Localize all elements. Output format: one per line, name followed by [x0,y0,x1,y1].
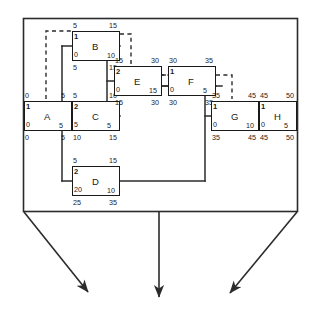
node-A-resource-count: 1 [26,103,30,111]
node-H-duration: 5 [284,122,288,129]
node-F-ls-label: 30 [169,99,177,106]
node-E-name: E [134,77,140,87]
node-C-name: C [92,112,99,122]
node-A-name: A [44,112,50,122]
node-A-lf-label: 5 [61,134,65,141]
node-A-float: 0 [26,121,30,128]
node-G-float: 0 [213,121,217,128]
node-F-ef-label: 35 [205,57,213,64]
callout-arrow-left [24,212,88,292]
node-B-name: B [92,42,98,52]
node-G-ls-label: 35 [212,134,220,141]
node-A-es-label: 0 [25,92,29,99]
node-A-ef-label: 5 [61,92,65,99]
node-B-es-label: 5 [73,22,77,29]
node-C-es-label: 5 [73,92,77,99]
node-F-resource-count: 1 [170,68,174,76]
node-H-es-label: 45 [260,92,268,99]
node-D-lf-label: 35 [109,199,117,206]
network-diagram-canvas [0,0,314,317]
node-H-name: H [274,112,281,122]
node-C-float: 5 [74,121,78,128]
node-E-lf-label: 30 [151,99,159,106]
node-A-duration: 5 [59,122,63,129]
network-diagram: 05051A055155151B01051010152C5551525352D2… [0,0,314,317]
callout-arrow-right [230,212,297,293]
node-F-name: F [188,77,194,87]
node-B-resource-count: 1 [74,33,78,41]
node-C-ls-label: 10 [73,134,81,141]
node-G-resource-count: 1 [213,103,217,111]
node-C-duration: 5 [107,122,111,129]
node-E-resource-count: 2 [116,68,120,76]
node-F-float: 0 [170,86,174,93]
node-H-ls-label: 45 [260,134,268,141]
node-C-lf-label: 15 [109,134,117,141]
node-D-duration: 10 [107,187,115,194]
node-C-resource-count: 2 [74,103,78,111]
node-G-name: G [231,112,238,122]
node-G-ef-label: 45 [248,92,256,99]
node-H-lf-label: 50 [286,134,294,141]
node-E-ls-label: 15 [115,99,123,106]
node-H-float: 0 [261,121,265,128]
node-G-lf-label: 45 [248,134,256,141]
node-G-es-label: 35 [212,92,220,99]
node-D-name: D [92,177,99,187]
node-A-ls-label: 0 [25,134,29,141]
node-D-resource-count: 2 [74,168,78,176]
node-B-ef-label: 15 [109,22,117,29]
node-B-duration: 10 [107,52,115,59]
node-D-float: 20 [74,186,82,193]
dashed-a-b [46,31,72,99]
node-E-duration: 15 [149,87,157,94]
node-H-resource-count: 1 [261,103,265,111]
node-D-ls-label: 25 [73,199,81,206]
node-E-ef-label: 30 [151,57,159,64]
node-E-es-label: 15 [115,57,123,64]
node-B-ls-label: 5 [73,64,77,71]
node-D-es-label: 5 [73,157,77,164]
node-B-float: 0 [74,51,78,58]
node-F-es-label: 30 [169,57,177,64]
callout-arrows [24,212,297,297]
node-H-ef-label: 50 [286,92,294,99]
node-G-duration: 10 [246,122,254,129]
node-E-float: 0 [116,86,120,93]
node-F-duration: 5 [203,87,207,94]
node-D-ef-label: 15 [109,157,117,164]
